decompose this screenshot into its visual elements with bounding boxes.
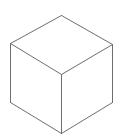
edge-top-right [62, 16, 113, 45]
edge-top-left [11, 16, 62, 44]
edge-left-center [11, 44, 62, 75]
edge-bottom-right [62, 103, 113, 134]
cube-icon [0, 0, 120, 135]
edge-bottom-left [11, 103, 62, 134]
edge-right-center [62, 45, 113, 75]
cube-diagram [0, 0, 120, 135]
